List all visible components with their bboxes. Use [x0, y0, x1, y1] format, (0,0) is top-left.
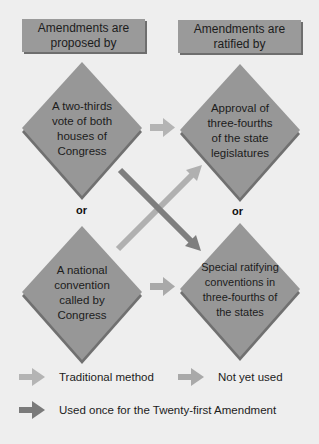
arrow-medium-icon	[178, 367, 204, 387]
diamond-state-legislatures-text: Approval of three-fourths of the state l…	[180, 64, 300, 198]
or-label-right: or	[232, 205, 243, 217]
arrow-traditional-top-icon	[150, 118, 175, 137]
diamond-congress-vote: A two-thirds vote of both houses of Cong…	[22, 62, 142, 196]
legend-traditional: Traditional method	[19, 367, 154, 387]
diamond-national-convention-text: A national convention called by Congress	[22, 226, 142, 360]
legend-not-yet-used: Not yet used	[178, 367, 283, 387]
or-label-left: or	[76, 204, 87, 216]
arrow-dark-icon	[19, 400, 45, 420]
diamond-national-convention: A national convention called by Congress	[22, 226, 142, 360]
legend-traditional-label: Traditional method	[59, 371, 154, 383]
arrow-not-yet-used-bottom-icon	[150, 277, 175, 296]
legend-used-once-label: Used once for the Twenty-first Amendment	[59, 404, 276, 416]
arrow-light-icon	[19, 367, 45, 387]
legend-not-yet-used-label: Not yet used	[218, 371, 283, 383]
diamond-ratifying-conventions-text: Special ratifying conventions in three-f…	[180, 223, 300, 357]
legend-used-once: Used once for the Twenty-first Amendment	[19, 400, 276, 420]
diamond-congress-vote-text: A two-thirds vote of both houses of Cong…	[22, 62, 142, 196]
diamond-ratifying-conventions: Special ratifying conventions in three-f…	[180, 223, 300, 357]
diamond-state-legislatures: Approval of three-fourths of the state l…	[180, 64, 300, 198]
